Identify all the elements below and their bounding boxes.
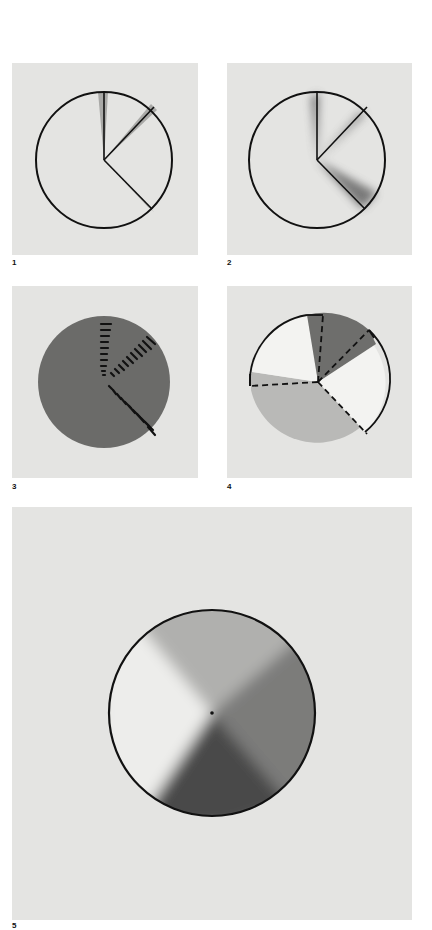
figure-5-label: 5	[12, 922, 16, 930]
figure-4-label: 4	[227, 483, 231, 491]
center-dot	[210, 711, 214, 715]
figure-1-label: 1	[12, 259, 16, 267]
figure-5-gradient-circle	[12, 507, 412, 920]
figure-2-pie-diagram	[227, 63, 412, 255]
figure-3-panel	[12, 286, 198, 478]
figure-2-panel	[227, 63, 412, 255]
figure-4-panel	[227, 286, 412, 478]
figure-1-panel	[12, 63, 198, 255]
figure-3-label: 3	[12, 483, 16, 491]
figure-3-pie-diagram	[12, 286, 198, 478]
figure-1-pie-diagram	[12, 63, 198, 255]
figure-5-panel	[12, 507, 412, 920]
figure-2-label: 2	[227, 259, 231, 267]
figure-4-pie-diagram	[227, 286, 412, 478]
